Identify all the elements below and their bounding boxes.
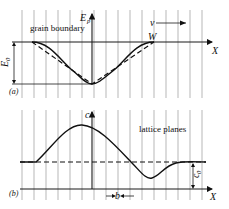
c0-arrow-up-icon (191, 163, 195, 167)
velocity-label: v (150, 17, 155, 28)
lattice-plane-lines (22, 10, 202, 200)
b-spacing-label: b (115, 190, 120, 201)
ep-axis-subscript: p (86, 17, 91, 24)
c0-arrow-down-icon (191, 185, 195, 189)
c0-subscript: 0 (195, 170, 202, 174)
diagram-canvas: E p grain boundary v W X E 0 (a) c 0 (0, 0, 229, 209)
panel-b: c 0 b c lattice planes X (b) (9, 109, 217, 202)
lattice-planes-label: lattice planes (139, 124, 187, 134)
panel-a: E p grain boundary v W X E 0 (a) (0, 12, 219, 96)
velocity-arrow-icon (180, 21, 186, 26)
c-axis-label: c (85, 109, 90, 120)
panel-b-x-axis-label: X (209, 191, 217, 202)
e0-subscript: 0 (4, 57, 11, 61)
e0-label-group: E 0 (0, 57, 11, 68)
b-arrow-left-icon (120, 194, 124, 198)
panel-a-solid-well-curve (32, 42, 154, 84)
panel-a-x-axis-label: X (211, 45, 219, 56)
e0-arrow-down-icon (12, 80, 16, 84)
c0-label-group: c 0 (190, 170, 202, 178)
grain-boundary-label: grain boundary (30, 23, 85, 33)
panel-b-label: (b) (9, 189, 19, 198)
e0-arrow-up-icon (12, 42, 16, 46)
ep-axis-label: E (79, 12, 86, 23)
panel-a-label: (a) (9, 87, 19, 96)
width-label: W (148, 31, 158, 42)
